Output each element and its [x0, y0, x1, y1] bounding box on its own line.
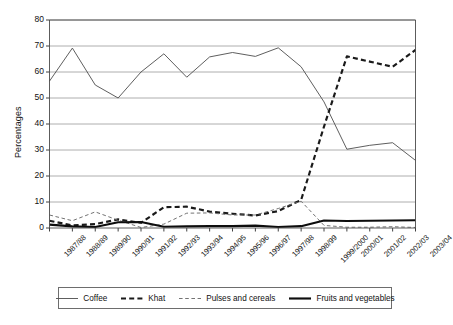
- legend-label: Khat: [148, 294, 165, 303]
- legend-swatch-icon: [120, 294, 144, 303]
- series-line-coffee: [50, 48, 416, 161]
- chart-legend: CoffeeKhatPulses and cerealsFruits and v…: [58, 287, 392, 309]
- data-series-group: [50, 48, 416, 228]
- legend-swatch-icon: [288, 294, 312, 303]
- grid-lines: [50, 20, 416, 202]
- legend-swatch-icon: [178, 294, 202, 303]
- series-line-fruits-and-vegetables: [50, 220, 416, 227]
- legend-label: Fruits and vegetables: [316, 294, 394, 303]
- legend-item-khat[interactable]: Khat: [120, 294, 165, 303]
- legend-item-pulses-and-cereals[interactable]: Pulses and cereals: [178, 294, 275, 303]
- legend-label: Coffee: [83, 294, 107, 303]
- legend-item-fruits-and-vegetables[interactable]: Fruits and vegetables: [288, 294, 394, 303]
- legend-label: Pulses and cereals: [206, 294, 275, 303]
- x-tick-label: 2003/04: [428, 233, 453, 259]
- legend-swatch-icon: [55, 294, 79, 303]
- axis-tick-marks: [46, 20, 416, 232]
- series-line-khat: [50, 50, 416, 226]
- legend-item-coffee[interactable]: Coffee: [55, 294, 107, 303]
